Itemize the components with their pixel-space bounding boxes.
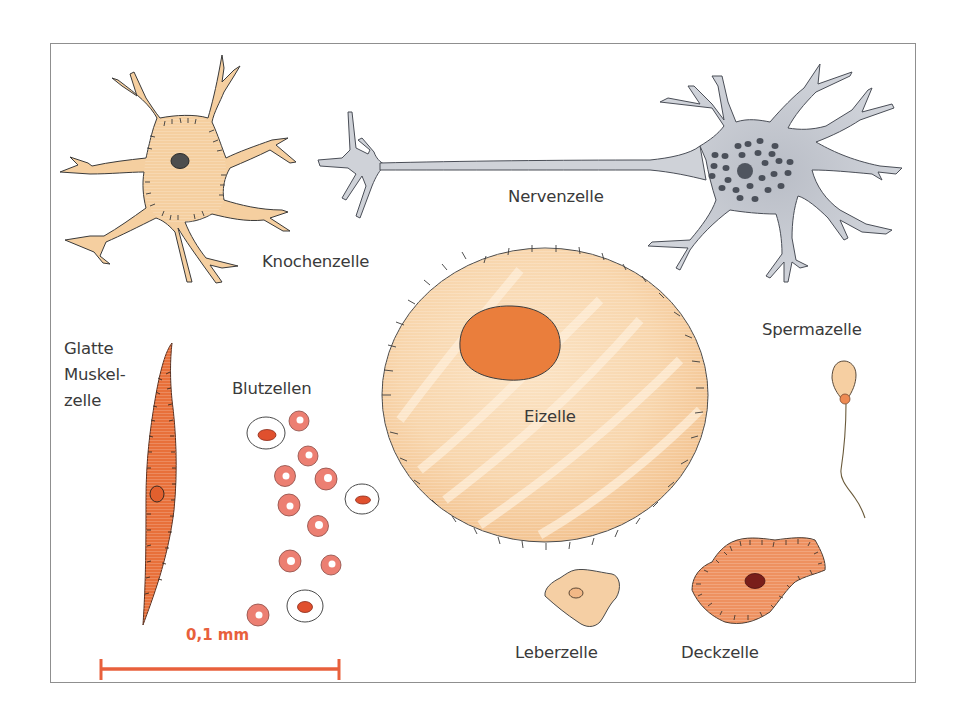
liver-cell-illustration xyxy=(545,569,620,626)
label-nervenzelle: Nervenzelle xyxy=(508,189,604,206)
egg-cell-illustration xyxy=(382,245,708,550)
label-blutzellen: Blutzellen xyxy=(232,381,311,398)
nerve-cell-illustration xyxy=(318,64,902,282)
label-glatte-muskelzelle-line3: zelle xyxy=(64,393,101,410)
bone-cell-illustration xyxy=(60,55,296,283)
label-eizelle: Eizelle xyxy=(524,409,576,426)
sperm-cell-illustration xyxy=(832,361,865,518)
label-leberzelle: Leberzelle xyxy=(515,645,598,662)
label-knochenzelle: Knochenzelle xyxy=(262,254,369,271)
scale-bar-label: 0,1 mm xyxy=(186,628,249,643)
cell-illustrations xyxy=(0,0,956,714)
smooth-muscle-cell-illustration xyxy=(143,343,176,625)
label-deckzelle: Deckzelle xyxy=(681,645,759,662)
blood-cells-illustration xyxy=(247,411,379,626)
label-glatte-muskelzelle-line1: Glatte xyxy=(64,341,113,358)
squamous-cell-illustration xyxy=(692,538,825,624)
label-spermazelle: Spermazelle xyxy=(762,322,862,339)
scale-bar xyxy=(101,659,339,680)
label-glatte-muskelzelle-line2: Muskel- xyxy=(64,367,126,384)
